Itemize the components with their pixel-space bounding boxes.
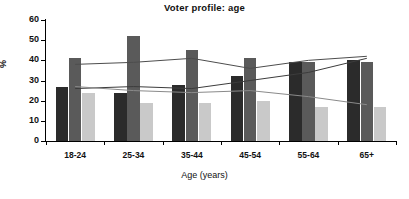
- y-tick-label: 10: [29, 115, 39, 125]
- x-tick-mark: [279, 141, 280, 145]
- chart-container: Voter profile: age % 0102030405060 18-24…: [0, 0, 409, 199]
- y-tick-label: 0: [34, 135, 39, 145]
- x-category-label: 18-24: [46, 150, 104, 160]
- line-series: [75, 87, 367, 105]
- y-tick-label: 60: [29, 14, 39, 24]
- lines-layer: [46, 20, 396, 141]
- line-series: [75, 56, 367, 68]
- y-tick-label: 50: [29, 34, 39, 44]
- x-axis-label: Age (years): [0, 170, 409, 180]
- y-axis-label: %: [0, 60, 8, 68]
- x-category-label: 55-64: [279, 150, 337, 160]
- x-tick-mark: [104, 141, 105, 145]
- plot-area: [46, 20, 396, 141]
- chart-title: Voter profile: age: [0, 2, 409, 13]
- x-category-label: 65+: [338, 150, 396, 160]
- x-tick-mark: [396, 141, 397, 145]
- y-tick-label: 30: [29, 75, 39, 85]
- x-tick-mark: [163, 141, 164, 145]
- x-tick-mark: [221, 141, 222, 145]
- y-tick-label: 20: [29, 95, 39, 105]
- x-category-label: 35-44: [163, 150, 221, 160]
- x-category-label: 45-54: [221, 150, 279, 160]
- x-tick-mark: [338, 141, 339, 145]
- y-tick-label: 40: [29, 54, 39, 64]
- x-tick-mark: [46, 141, 47, 145]
- x-category-label: 25-34: [104, 150, 162, 160]
